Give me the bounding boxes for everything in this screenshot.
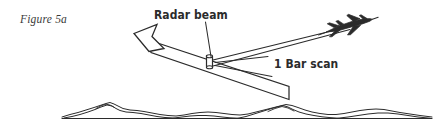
annotation-radar-beam: Radar beam <box>154 7 228 22</box>
beam-arrowhead <box>134 25 164 52</box>
terrain-group <box>62 103 432 119</box>
radar-beam-leader-line <box>206 22 212 57</box>
figure-5a-diagram: Figure 5a Radar beam 1 Bar scan <box>0 0 441 136</box>
fighter-jet-icon <box>316 8 381 43</box>
terrain-front-ridge-mid <box>174 116 238 119</box>
terrain-front-ridge-right <box>238 106 338 119</box>
annotation-bar-scan: 1 Bar scan <box>274 56 338 71</box>
figure-caption-label: Figure 5a <box>20 13 67 25</box>
terrain-far-right-hill <box>338 113 430 118</box>
antenna-bottom-cap <box>206 66 212 69</box>
leader-line-path <box>206 22 212 57</box>
terrain-bump-b <box>268 107 294 112</box>
antenna-top-cap <box>206 55 212 58</box>
beam-direction-arrow <box>134 25 164 52</box>
one-bar-scan-band <box>147 40 289 100</box>
jet-nose-probe <box>372 17 378 19</box>
scan-band-outline <box>147 40 289 100</box>
radar-antenna <box>206 55 212 69</box>
